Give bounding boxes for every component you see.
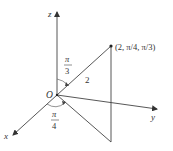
point-label: (2, π/4, π/3) xyxy=(115,42,155,52)
origin-label: O xyxy=(46,90,53,100)
y-axis xyxy=(57,95,157,109)
y-axis-label: y xyxy=(150,112,155,122)
theta-numerator: π xyxy=(52,109,57,119)
spherical-coordinates-diagram: z y x (2, π/4, π/3) O π 3 2 π 4 xyxy=(0,0,173,151)
phi-denominator: 3 xyxy=(65,66,69,76)
point-marker xyxy=(109,44,112,47)
phi-numerator: π xyxy=(65,54,70,64)
theta-angle-arc xyxy=(47,103,65,107)
rho-label: 2 xyxy=(85,75,90,85)
theta-denominator: 4 xyxy=(52,121,57,131)
z-axis-label: z xyxy=(47,9,52,19)
x-axis xyxy=(13,95,57,135)
x-axis-label: x xyxy=(3,131,8,141)
origin-marker xyxy=(56,94,58,96)
